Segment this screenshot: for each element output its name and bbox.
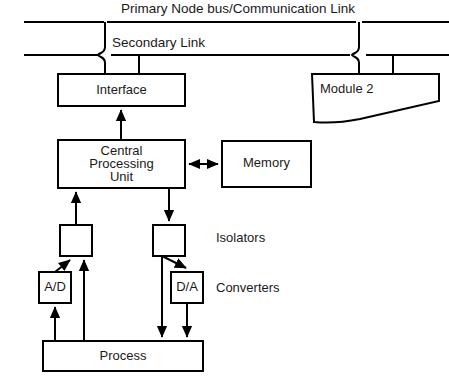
isolator-left-block[interactable] <box>60 225 92 256</box>
block-diagram-canvas: Interface Module 2 Central Processing Un… <box>0 0 449 378</box>
ad-converter-label: A/D <box>44 279 66 294</box>
primary-bus-label: Primary Node bus/Communication Link <box>121 1 355 16</box>
secondary-link-label: Secondary Link <box>112 35 205 50</box>
module-2-label: Module 2 <box>320 81 373 96</box>
memory-label: Memory <box>243 155 290 170</box>
memory-block[interactable]: Memory <box>222 141 311 187</box>
isolator-right-block[interactable] <box>153 225 185 256</box>
module-2-block[interactable]: Module 2 <box>312 74 439 123</box>
bus-junction-left <box>98 22 105 74</box>
diagram-svg: Interface Module 2 Central Processing Un… <box>0 0 449 378</box>
ad-converter-block[interactable]: A/D <box>39 272 71 303</box>
isolator-to-da-connector <box>162 256 186 268</box>
da-converter-block[interactable]: D/A <box>171 272 203 303</box>
converters-label: Converters <box>216 280 280 295</box>
ad-to-isolator-connector <box>55 260 70 272</box>
cpu-label-line-3: Unit <box>110 169 134 184</box>
da-converter-label: D/A <box>176 279 198 294</box>
process-label: Process <box>100 348 147 363</box>
interface-block[interactable]: Interface <box>58 74 185 106</box>
interface-label: Interface <box>96 82 147 97</box>
cpu-block[interactable]: Central Processing Unit <box>58 140 185 188</box>
bus-junction-right <box>352 22 359 74</box>
isolators-label: Isolators <box>216 230 266 245</box>
process-block[interactable]: Process <box>43 341 203 371</box>
